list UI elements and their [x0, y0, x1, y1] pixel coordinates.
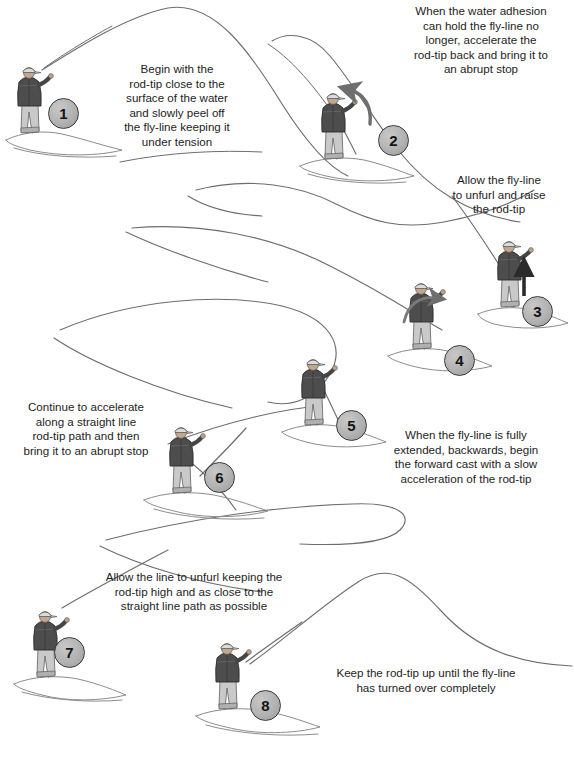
- step-badge-7[interactable]: 7: [54, 637, 85, 668]
- angler-figure-5: [302, 360, 338, 425]
- angler-figure-3: [498, 242, 534, 307]
- step-badge-6[interactable]: 6: [204, 462, 235, 493]
- angler-figure-6: [170, 428, 206, 493]
- fly-line-illustration: [0, 0, 574, 757]
- step-5-caption: When the fly-line is fully extended, bac…: [366, 428, 566, 486]
- step-badge-1[interactable]: 1: [48, 98, 79, 129]
- fly-casting-diagram: Begin with the rod-tip close to the surf…: [0, 0, 574, 757]
- step-badge-5[interactable]: 5: [336, 410, 367, 441]
- step-badge-8[interactable]: 8: [250, 690, 281, 721]
- step-badge-2[interactable]: 2: [378, 125, 409, 156]
- step-2-caption: When the water adhesion can hold the fly…: [388, 4, 574, 77]
- angler-figure-1: [18, 68, 54, 133]
- step-badge-3[interactable]: 3: [522, 296, 553, 327]
- step-6-caption: Continue to accelerate along a straight …: [6, 400, 166, 458]
- step-badge-4[interactable]: 4: [444, 345, 475, 376]
- step-1-caption: Begin with the rod-tip close to the surf…: [94, 62, 260, 150]
- angler-figure-2: [322, 94, 358, 159]
- angler-figure-4: [410, 284, 446, 349]
- step-8-caption: Keep the rod-tip up until the fly-line h…: [302, 666, 550, 695]
- angler-figure-8: [216, 644, 252, 709]
- step-3-caption: Allow the fly-line to unfurl and raise t…: [424, 173, 574, 217]
- step-7-caption: Allow the line to unfurl keeping the rod…: [78, 570, 310, 614]
